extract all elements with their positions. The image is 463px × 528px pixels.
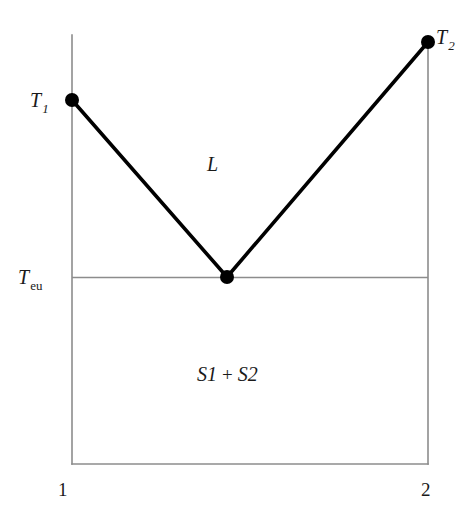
t1-axis-label: T1 (30, 89, 49, 116)
t1-point-marker (65, 93, 79, 107)
liquid-region-label: L (206, 153, 218, 175)
x-tick-label-left: 1 (58, 479, 68, 500)
phase-diagram-figure: T1 Teu T2 L S1+S2 1 2 (0, 0, 463, 528)
x-tick-label-right: 2 (421, 479, 431, 500)
liquidus-right-curve (227, 42, 428, 277)
phase-diagram-canvas: T1 Teu T2 L S1+S2 1 2 (0, 0, 463, 528)
t2-axis-label: T2 (436, 26, 455, 53)
t2-point-marker (421, 35, 435, 49)
eutectic-point-marker (220, 270, 234, 284)
teu-axis-label: Teu (18, 266, 43, 293)
liquidus-left-curve (72, 100, 227, 277)
two-solid-region-label: S1+S2 (197, 363, 258, 385)
